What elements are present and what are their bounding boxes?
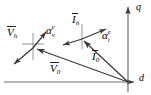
v0-label-subscript: 0 [57,68,61,76]
vh-label: Vh [7,27,17,40]
i0-label-subscript: 0 [96,56,100,64]
ih-label-base: I [72,13,76,25]
vh-positive-arrow [33,32,46,48]
vh-label-base: V [7,26,14,38]
v0-overbar [50,62,59,63]
i0-vector [84,41,128,82]
i0-label: I0 [92,51,99,64]
ih-label-subscript: h [76,19,80,27]
vh-cluster [14,32,46,64]
alpha-v-label: αev [46,25,55,37]
vh-overbar [7,26,16,27]
alpha-i-label: αei [102,30,111,42]
d-axis-label: d [139,73,144,83]
figure-canvas: q d Vh Ih V0 I0 αev αei [0,0,151,95]
vh-negative-arrow [14,48,33,64]
alpha-v-superscript: e [52,24,55,30]
axis-lines [4,7,134,92]
ih-overbar [72,13,78,14]
ih-label: Ih [72,14,79,27]
alpha-i-indices: ei [108,31,111,43]
vh-label-subscript: h [14,32,18,40]
v0-label: V0 [50,63,60,76]
i0-overbar [92,50,98,51]
alpha-i-subscript: i [108,37,111,43]
ih-negative-arrow [63,39,82,45]
alpha-v-subscript: v [52,32,55,38]
q-axis-label: q [136,2,141,12]
v0-label-base: V [50,62,57,74]
i0-label-base: I [92,50,96,62]
alpha-v-indices: ev [52,26,55,38]
alpha-i-superscript: e [108,29,111,35]
ih-cluster [63,24,106,49]
